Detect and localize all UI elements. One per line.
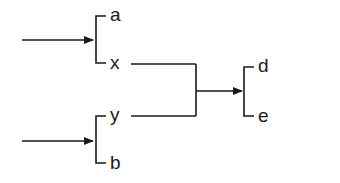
label-d: d — [258, 55, 269, 76]
reaction-diagram: a x y b d e — [0, 0, 340, 183]
bracket-group-1 — [96, 16, 106, 63]
label-b: b — [110, 152, 121, 173]
bracket-group-2 — [96, 116, 106, 163]
label-e: e — [258, 105, 269, 126]
label-x: x — [110, 52, 120, 73]
label-a: a — [110, 4, 121, 25]
label-y: y — [110, 104, 120, 125]
bracket-output-group — [244, 67, 254, 116]
